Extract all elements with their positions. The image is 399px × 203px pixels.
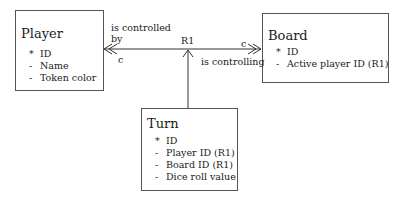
entity-player[interactable]: Player *ID -Name -Token color [15, 10, 104, 91]
entity-turn[interactable]: Turn *ID -Player ID (R1) -Board ID (R1) … [141, 108, 238, 191]
attribute-list: *ID -Active player ID (R1) [276, 46, 388, 70]
attribute-item: *ID [155, 135, 236, 147]
attribute-list: *ID -Name -Token color [29, 48, 96, 84]
attribute-item: -Token color [29, 72, 96, 84]
attribute-item: -Player ID (R1) [155, 147, 236, 159]
entity-board[interactable]: Board *ID -Active player ID (R1) [262, 13, 389, 83]
multiplicity-board: c [241, 38, 246, 49]
multiplicity-player: c [118, 54, 123, 65]
attribute-item: -Dice roll value [155, 171, 236, 183]
attribute-item: -Name [29, 60, 96, 72]
relationship-phrase-board: is controlling [201, 56, 265, 67]
attribute-item: *ID [276, 46, 388, 58]
relationship-phrase-player-line1: is controlled [111, 22, 171, 33]
relationship-name: R1 [181, 35, 194, 46]
attribute-item: -Active player ID (R1) [276, 58, 388, 70]
attribute-list: *ID -Player ID (R1) -Board ID (R1) -Dice… [155, 135, 236, 183]
entity-title: Turn [147, 116, 179, 131]
entity-title: Player [21, 26, 63, 41]
attribute-item: -Board ID (R1) [155, 159, 236, 171]
attribute-item: *ID [29, 48, 96, 60]
entity-title: Board [268, 28, 308, 43]
relationship-phrase-player-line2: by [111, 33, 122, 44]
